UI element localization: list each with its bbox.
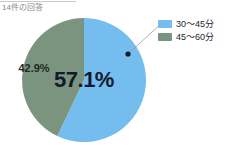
marker-dot [125, 51, 130, 56]
legend-item-45-60[interactable]: 45〜60分 [158, 31, 224, 43]
legend-item-30-45[interactable]: 30〜45分 [158, 18, 224, 30]
legend-label-30-45: 30〜45分 [176, 19, 214, 29]
legend-swatch-30-45 [158, 20, 172, 28]
pie-label-major: 57.1% [54, 67, 114, 93]
legend-swatch-45-60 [158, 33, 172, 41]
legend: 30〜45分 45〜60分 [158, 18, 224, 44]
chart-container: 14件の回答 57.1% 42.9% 30〜45分 45〜60分 [0, 0, 225, 147]
legend-label-45-60: 45〜60分 [176, 32, 214, 42]
pie-label-minor: 42.9% [18, 62, 49, 74]
